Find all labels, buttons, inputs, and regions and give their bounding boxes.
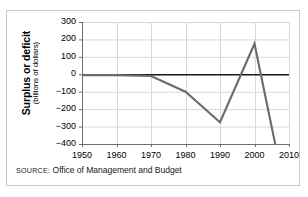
y-axis-title-units: (billions of dollars)	[32, 42, 41, 104]
figure-frame: 3002001000−100−200−300−400 1950196019701…	[6, 10, 300, 186]
x-tick-label: 1950	[65, 150, 99, 160]
x-tick-label: 2000	[238, 150, 272, 160]
x-tick-label: 2010	[272, 150, 306, 160]
source-text: Office of Management and Budget	[53, 165, 182, 175]
x-tick-label: 1990	[203, 150, 237, 160]
x-tick-label: 1960	[100, 150, 134, 160]
source-note: SOURCE: Office of Management and Budget	[16, 165, 182, 175]
x-tick-label: 1980	[169, 150, 203, 160]
chart-plot-region: 3002001000−100−200−300−400 1950196019701…	[7, 11, 301, 153]
horizontal-gridlines	[82, 23, 289, 145]
y-axis-title: Surplus or deficit (billions of dollars)	[7, 13, 55, 133]
x-tick-label: 1970	[134, 150, 168, 160]
source-label: SOURCE:	[16, 166, 50, 175]
y-tick-marks	[79, 23, 82, 145]
y-tick-label: −400	[46, 138, 76, 148]
data-series-line	[82, 44, 275, 144]
